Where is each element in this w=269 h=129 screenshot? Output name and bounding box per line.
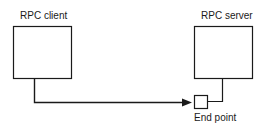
- rpc-client-box: [14, 27, 72, 79]
- rpc-server-box: [195, 27, 253, 79]
- server-to-endpoint-connector: [208, 79, 223, 102]
- client-to-endpoint-connector: [35, 79, 185, 103]
- arrowhead-icon: [182, 99, 192, 107]
- endpoint-label: End point: [194, 113, 236, 123]
- endpoint-box: [195, 96, 208, 109]
- rpc-server-label: RPC server: [201, 11, 253, 21]
- rpc-diagram: RPC client RPC server End point: [0, 0, 269, 129]
- rpc-client-label: RPC client: [20, 11, 67, 21]
